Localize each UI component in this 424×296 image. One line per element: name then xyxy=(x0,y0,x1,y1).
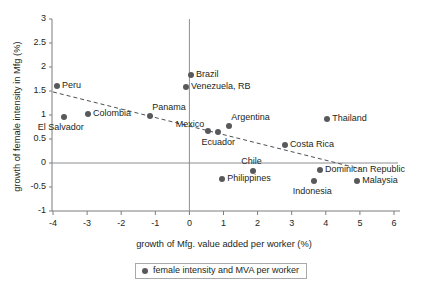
data-point-label: Panama xyxy=(152,103,186,112)
data-point[interactable] xyxy=(282,142,288,148)
x-tick-label: 4 xyxy=(312,219,340,228)
x-tick-label: 3 xyxy=(278,219,306,228)
x-tick-label: -2 xyxy=(107,219,135,228)
legend-entry-label: female intensity and MVA per worker xyxy=(153,266,299,275)
data-point-label: Indonesia xyxy=(293,187,332,196)
data-point-label: Costa Rica xyxy=(290,140,334,149)
x-tick-label: 6 xyxy=(380,219,408,228)
legend-marker-icon xyxy=(142,268,148,274)
data-point[interactable] xyxy=(205,128,211,134)
data-point-label: El Salvador xyxy=(38,123,84,132)
x-tick-label: 0 xyxy=(175,219,203,228)
axes-layer xyxy=(0,0,424,296)
chart-legend: female intensity and MVA per worker xyxy=(135,263,307,279)
data-point-label: Peru xyxy=(62,81,81,90)
data-point-label: Colombia xyxy=(93,109,131,118)
x-tick-label: -1 xyxy=(141,219,169,228)
data-point-label: Thailand xyxy=(332,114,367,123)
data-point-label: Chile xyxy=(241,157,262,166)
x-tick-label: -4 xyxy=(39,219,67,228)
plot-area: -1-0.500.511.522.53 -4-3-2-10123456 Peru… xyxy=(0,0,424,296)
data-point-label: Argentina xyxy=(231,113,270,122)
data-point-label: Ecuador xyxy=(201,138,235,147)
y-tick-label: 3 xyxy=(18,14,46,23)
data-point[interactable] xyxy=(61,114,67,120)
scatter-chart-figure: -1-0.500.511.522.53 -4-3-2-10123456 Peru… xyxy=(0,0,424,296)
x-tick-label: -3 xyxy=(73,219,101,228)
data-point-label: Malaysia xyxy=(362,176,398,185)
data-point-label: Philippines xyxy=(227,174,271,183)
y-tick-label: -1 xyxy=(18,206,46,215)
x-tick-label: 2 xyxy=(244,219,272,228)
data-point-label: Venezuela, RB xyxy=(191,82,251,91)
data-point[interactable] xyxy=(219,176,225,182)
data-point[interactable] xyxy=(215,129,221,135)
data-point-label: Dominican Republic xyxy=(325,165,405,174)
x-axis-title: growth of Mfg. value added per worker (%… xyxy=(52,240,396,249)
y-axis-title: growth of female intensity in Mfg (%) xyxy=(13,37,22,197)
x-tick-label: 5 xyxy=(346,219,374,228)
data-point-label: Mexico xyxy=(176,120,205,129)
data-point-label: Brazil xyxy=(196,70,219,79)
data-point[interactable] xyxy=(324,116,330,122)
x-tick-label: 1 xyxy=(210,219,238,228)
